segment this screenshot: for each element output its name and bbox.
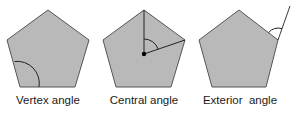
central-angle-label: Central angle xyxy=(110,94,178,106)
exterior-angle-label: Exterior angle xyxy=(203,94,277,106)
exterior-angle-arc xyxy=(269,28,283,33)
polygon-angles-diagram: Vertex angle Central angle Exterior angl… xyxy=(0,0,293,113)
vertex-angle-panel: Vertex angle xyxy=(7,10,89,106)
pentagon-vertex xyxy=(7,10,89,87)
vertex-angle-label: Vertex angle xyxy=(16,94,80,106)
exterior-angle-panel: Exterior angle xyxy=(199,6,290,106)
exterior-extension-line xyxy=(278,6,290,40)
center-dot xyxy=(142,52,146,56)
central-angle-panel: Central angle xyxy=(103,10,185,106)
pentagon-exterior xyxy=(199,10,278,87)
